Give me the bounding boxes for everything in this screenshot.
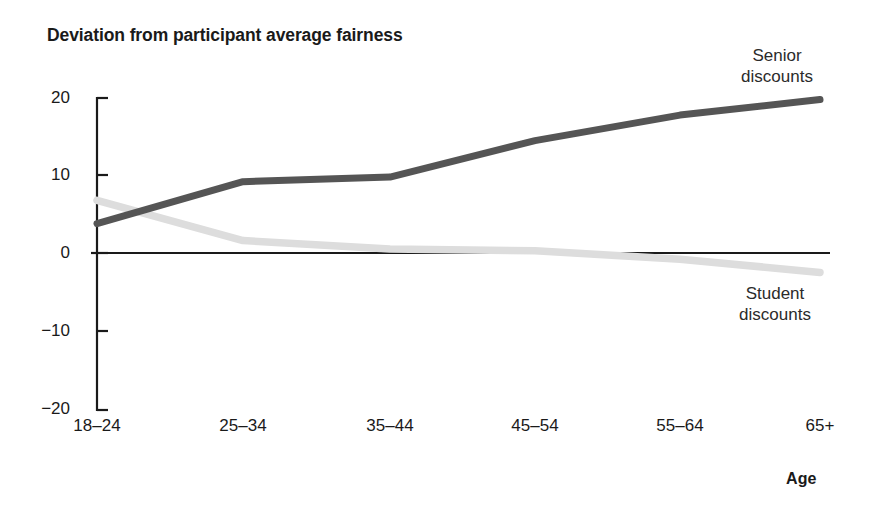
series-annotation-senior-line2: discounts: [702, 66, 852, 87]
series-line-student-discounts: [97, 200, 820, 272]
y-tick-label-0: 0: [18, 243, 70, 263]
y-tick-label-neg10: −10: [18, 321, 70, 341]
x-axis-title: Age: [786, 470, 817, 488]
series-line-senior-discounts: [97, 100, 820, 224]
x-tick-label-65-plus: 65+: [765, 416, 875, 436]
series-annotation-student-line2: discounts: [700, 304, 850, 325]
x-tick-label-55-64: 55–64: [625, 416, 735, 436]
y-tick-label-10: 10: [18, 165, 70, 185]
series-annotation-senior-discounts: Senior discounts: [702, 45, 852, 87]
x-tick-label-25-34: 25–34: [188, 416, 298, 436]
y-tick-label-20: 20: [18, 88, 70, 108]
series-annotation-student-line1: Student: [700, 283, 850, 304]
series-annotation-student-discounts: Student discounts: [700, 283, 850, 325]
x-tick-label-45-54: 45–54: [480, 416, 590, 436]
x-tick-label-18-24: 18–24: [42, 416, 152, 436]
series-annotation-senior-line1: Senior: [702, 45, 852, 66]
chart-figure: Deviation from participant average fairn…: [0, 0, 877, 515]
x-tick-label-35-44: 35–44: [335, 416, 445, 436]
